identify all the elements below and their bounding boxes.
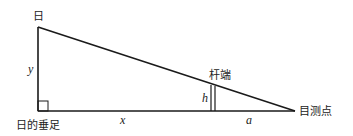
- label-pole-top: 杆端: [209, 68, 231, 82]
- var-x: x: [119, 113, 126, 127]
- label-sun: 日: [33, 10, 44, 23]
- label-sun-foot: 日的垂足: [16, 118, 60, 132]
- hypotenuse-line: [38, 27, 295, 111]
- similar-triangles-diagram: 日 日的垂足 杆端 目测点 y x h a: [0, 0, 353, 136]
- right-angle-marker: [38, 101, 48, 111]
- var-a: a: [246, 113, 252, 127]
- var-h: h: [202, 91, 208, 105]
- label-observation-point: 目测点: [299, 105, 332, 118]
- var-y: y: [27, 62, 34, 76]
